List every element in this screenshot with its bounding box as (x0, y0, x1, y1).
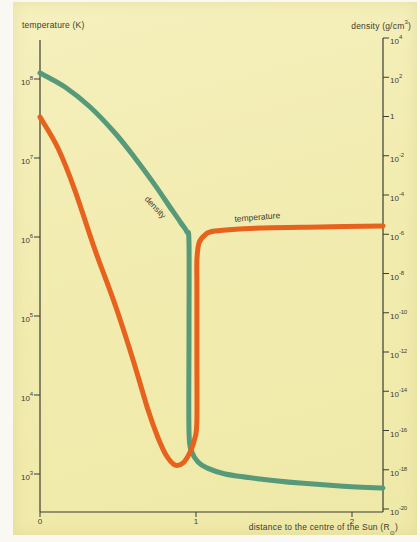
ticks-layer: 108107106105104103104102110-210-410-610-… (0, 0, 420, 542)
sun-symbol-subscript: ⊙ (390, 530, 395, 536)
right-axis-tick-label: 10-18 (390, 465, 407, 479)
right-axis-title-text: density (g/cm (351, 21, 404, 31)
x-axis-tick-label: 1 (186, 517, 206, 527)
right-axis-tick-label: 102 (390, 72, 402, 86)
left-axis-tick-label: 105 (0, 311, 33, 325)
left-axis-tick-label: 106 (0, 232, 33, 246)
right-axis-tick-label: 10-10 (390, 308, 407, 322)
right-axis-tick-label: 10-16 (390, 426, 407, 440)
right-axis-tick-label: 10-8 (390, 269, 404, 283)
right-axis-title: density (g/cm3) (351, 20, 411, 31)
x-axis-title-text: distance to the centre of the Sun (R (249, 522, 390, 532)
x-axis-tick-label: 0 (30, 517, 50, 527)
x-axis-title-close: ) (395, 522, 398, 532)
figure-page: 108107106105104103104102110-210-410-610-… (0, 0, 420, 542)
right-axis-tick-label: 10-2 (390, 151, 404, 165)
left-axis-title: temperature (K) (22, 20, 85, 30)
left-axis-tick-label: 107 (0, 153, 33, 167)
right-axis-tick-label: 10-6 (390, 229, 404, 243)
left-axis-tick-label: 108 (0, 74, 33, 88)
right-axis-tick-label: 104 (390, 33, 402, 47)
right-axis-tick-label: 10-20 (390, 504, 407, 518)
left-axis-tick-label: 104 (0, 390, 33, 404)
right-axis-title-close: ) (408, 21, 411, 31)
x-axis-title: distance to the centre of the Sun (R⊙) (249, 522, 398, 534)
left-axis-tick-label: 103 (0, 469, 33, 483)
right-axis-tick-label: 1 (390, 112, 394, 122)
right-axis-tick-label: 10-4 (390, 190, 404, 204)
right-axis-tick-label: 10-12 (390, 347, 407, 361)
right-axis-tick-label: 10-14 (390, 386, 407, 400)
right-axis-title-sup: 3 (404, 19, 408, 25)
